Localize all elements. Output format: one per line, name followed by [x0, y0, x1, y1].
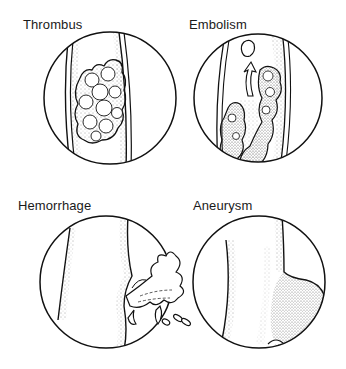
hemorrhage-panel [40, 216, 192, 350]
aneurysm-panel [193, 215, 326, 348]
flow-arrow-icon [244, 62, 256, 96]
embolus-fragment [241, 40, 254, 56]
hemorrhage-blood-spurt [126, 252, 192, 327]
thrombus-clot [75, 60, 126, 143]
embolism-panel [194, 30, 322, 170]
vascular-conditions-illustration [0, 0, 346, 369]
thrombus-panel [44, 25, 176, 170]
